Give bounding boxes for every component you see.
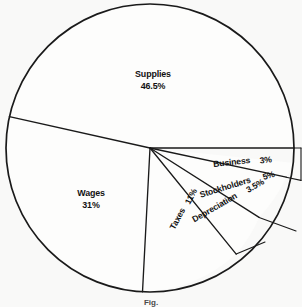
pie-label-business-value: 3% bbox=[259, 154, 273, 165]
pie-label-supplies-value: 46.5% bbox=[141, 81, 166, 91]
pie-label-wages-name: Wages bbox=[77, 188, 105, 198]
pie-label-supplies-name: Supplies bbox=[135, 69, 171, 79]
pie-chart-figure: Supplies 46.5% Wages 31% Business 3% Sto… bbox=[0, 0, 302, 307]
figure-caption: Fig. bbox=[144, 298, 158, 307]
leader-line-stockholders-bottom bbox=[259, 217, 296, 231]
pie-chart-canvas: Supplies 46.5% Wages 31% Business 3% Sto… bbox=[0, 0, 302, 307]
leader-line-business-bottom bbox=[286, 177, 301, 180]
pie-label-wages-value: 31% bbox=[82, 200, 100, 210]
